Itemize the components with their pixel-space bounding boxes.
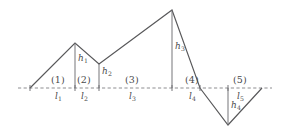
segment-label-3: (3) [125, 75, 139, 85]
length-sub-l4: 4 [192, 95, 196, 102]
profile-diagram: (1) (2) (3) (4) (5) l1 l2 l3 l4 l5 h1 h2… [0, 0, 283, 137]
height-sub-h4: 4 [237, 104, 241, 111]
length-label-l2: l2 [81, 92, 88, 101]
height-sub-h2: 2 [108, 70, 112, 77]
length-label-l5: l5 [237, 92, 244, 101]
height-label-h4: h4 [231, 101, 241, 110]
height-label-h2: h2 [102, 67, 112, 76]
length-sub-l1: 1 [58, 95, 62, 102]
height-label-h3: h3 [175, 42, 185, 51]
terrain-profile-polyline [30, 10, 262, 125]
segment-label-1: (1) [51, 75, 65, 85]
length-sub-l2: 2 [84, 95, 88, 102]
length-label-l3: l3 [129, 92, 136, 101]
length-label-l1: l1 [55, 92, 62, 101]
diagram-canvas [0, 0, 283, 137]
segment-label-4: (4) [185, 75, 199, 85]
segment-label-5: (5) [233, 75, 247, 85]
length-label-l4: l4 [189, 92, 196, 101]
segment-label-2: (2) [77, 75, 91, 85]
height-sub-h3: 3 [181, 45, 185, 52]
height-sub-h1: 1 [84, 57, 88, 64]
length-sub-l3: 3 [132, 95, 136, 102]
height-label-h1: h1 [78, 54, 88, 63]
